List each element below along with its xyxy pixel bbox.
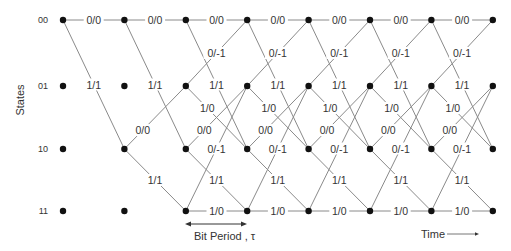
state-node — [60, 208, 66, 214]
state-node — [121, 83, 127, 89]
edge-label: 1/1 — [332, 174, 347, 186]
edge-label: 1/1 — [271, 174, 286, 186]
edge-label: 1/0 — [200, 102, 215, 114]
bit-period-arrowhead-right — [241, 222, 247, 227]
edge-label: 0/0 — [381, 124, 396, 136]
state-labels: 00011011 — [38, 15, 48, 216]
edge-label: 1/1 — [148, 79, 163, 91]
state-label-10: 10 — [38, 144, 48, 154]
edge-label: 0/0 — [393, 14, 408, 26]
state-node — [305, 146, 311, 152]
edge-label: 1/1 — [393, 174, 408, 186]
edge-label: 0/-1 — [207, 143, 225, 155]
edge-label: 0/-1 — [207, 47, 225, 59]
state-node — [244, 17, 250, 23]
state-node — [490, 83, 496, 89]
edge-label: 0/-1 — [330, 143, 348, 155]
state-node — [367, 208, 373, 214]
edge-label: 0/0 — [320, 124, 335, 136]
edge-label: 0/0 — [148, 14, 163, 26]
state-node — [367, 17, 373, 23]
edge-label: 0/0 — [332, 14, 347, 26]
state-node — [183, 17, 189, 23]
edge-label: 0/0 — [443, 124, 458, 136]
state-label-00: 00 — [38, 15, 48, 25]
edge-label: 0/0 — [197, 124, 212, 136]
y-axis-title: States — [14, 84, 26, 116]
edge-label: 1/0 — [323, 102, 338, 114]
state-node — [490, 208, 496, 214]
edge-label: 1/0 — [455, 205, 470, 217]
edge-label: 1/0 — [332, 205, 347, 217]
state-label-01: 01 — [38, 81, 48, 91]
bit-period-label: Bit Period , τ — [194, 230, 256, 242]
state-node — [60, 83, 66, 89]
state-node — [121, 208, 127, 214]
edge-label: 1/0 — [446, 102, 461, 114]
bit-period-arrowhead-left — [185, 222, 191, 227]
edge-label: 0/0 — [209, 14, 224, 26]
bit-period-annotation: Bit Period , τ — [185, 222, 256, 243]
edge-label: 0/-1 — [330, 47, 348, 59]
edge-label: 0/0 — [136, 124, 151, 136]
edge-label: 0/-1 — [392, 47, 410, 59]
edge-label: 0/0 — [258, 124, 273, 136]
state-node — [367, 146, 373, 152]
state-node — [428, 146, 434, 152]
edge-label: 0/0 — [86, 14, 101, 26]
edge-label: 1/0 — [393, 205, 408, 217]
edge-label: 0/-1 — [392, 143, 410, 155]
state-node — [244, 208, 250, 214]
state-node — [183, 208, 189, 214]
edge-label: 0/-1 — [453, 47, 471, 59]
trellis-diagram: 0/01/10/01/10/01/10/01/10/-11/00/01/10/-… — [0, 0, 511, 251]
transition-edge — [124, 86, 185, 149]
state-node — [60, 146, 66, 152]
state-node — [367, 83, 373, 89]
state-node — [490, 146, 496, 152]
edge-label: 1/1 — [86, 79, 101, 91]
edge-label: 1/1 — [455, 174, 470, 186]
edge-label: 1/1 — [332, 79, 347, 91]
edge-label: 1/1 — [148, 174, 163, 186]
state-node — [121, 17, 127, 23]
edge-label: 1/0 — [209, 205, 224, 217]
state-node — [305, 83, 311, 89]
edge-label: 0/0 — [455, 14, 470, 26]
edge-label: 1/0 — [271, 205, 286, 217]
edge-label: 0/-1 — [269, 47, 287, 59]
edge-label: 1/1 — [271, 79, 286, 91]
edge-label: 0/0 — [271, 14, 286, 26]
state-node — [428, 83, 434, 89]
time-annotation: Time — [421, 228, 479, 240]
edge-label: 1/0 — [261, 102, 276, 114]
state-node — [305, 17, 311, 23]
state-node — [428, 17, 434, 23]
state-label-11: 11 — [39, 206, 48, 216]
edge-label: 1/1 — [209, 79, 224, 91]
state-node — [121, 146, 127, 152]
state-node — [183, 146, 189, 152]
state-node — [244, 83, 250, 89]
state-node — [490, 17, 496, 23]
edge-label: 0/-1 — [269, 143, 287, 155]
edge-label: 1/1 — [209, 174, 224, 186]
time-label: Time — [421, 228, 445, 240]
state-node — [428, 208, 434, 214]
state-node — [244, 146, 250, 152]
time-arrowhead — [475, 232, 479, 235]
state-node — [305, 208, 311, 214]
state-node — [60, 17, 66, 23]
edge-label: 0/-1 — [453, 143, 471, 155]
edge-label: 1/1 — [455, 79, 470, 91]
edge-label: 1/0 — [384, 102, 399, 114]
state-node — [183, 83, 189, 89]
edge-label: 1/1 — [393, 79, 408, 91]
